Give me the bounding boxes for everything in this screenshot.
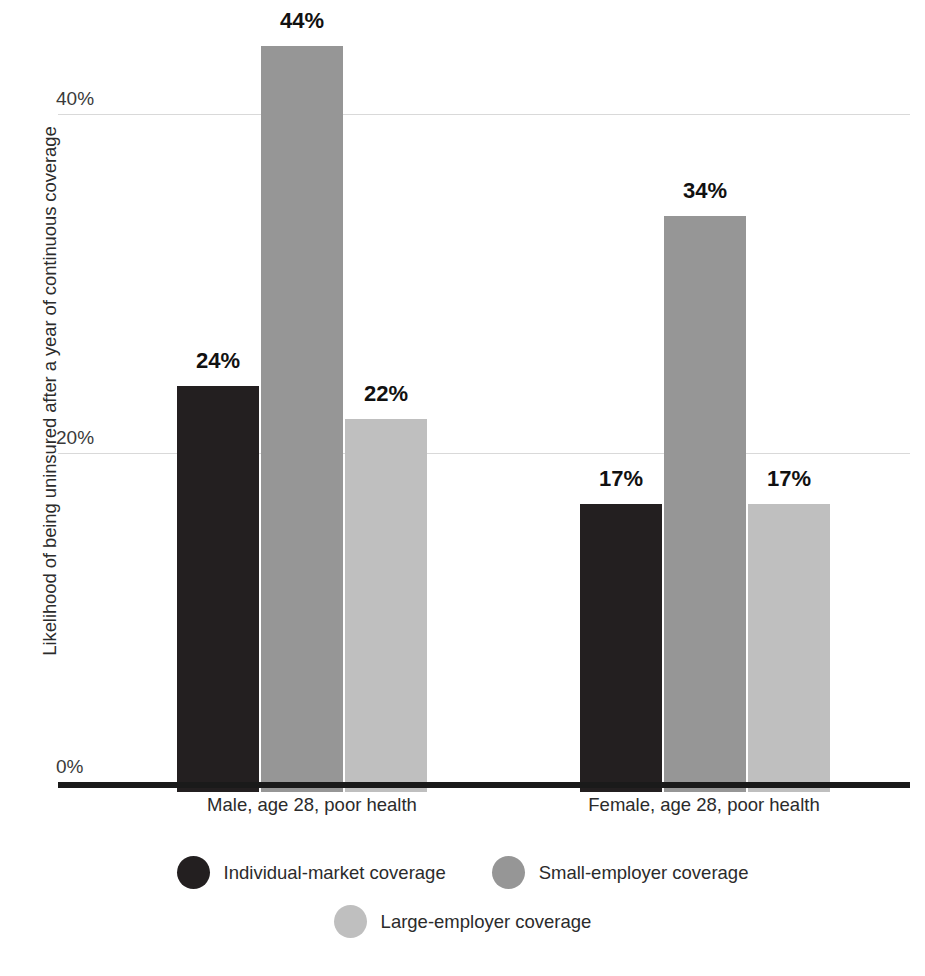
legend-row-1: Individual-market coverage Small-employe… [0, 856, 925, 889]
y-tick-label-0: 0% [56, 756, 122, 778]
category-label-male: Male, age 28, poor health [142, 794, 482, 816]
legend-label-individual-market: Individual-market coverage [224, 862, 446, 884]
legend: Individual-market coverage Small-employe… [0, 856, 925, 954]
gridline-40 [58, 114, 910, 115]
bar-value-label-female-individual-market: 17% [570, 466, 672, 492]
x-axis-baseline [58, 782, 910, 788]
bar-value-label-female-large-employer: 17% [738, 466, 840, 492]
bar-male-large-employer[interactable] [345, 419, 427, 792]
bar-value-label-male-small-employer: 44% [251, 8, 353, 34]
bar-value-label-male-large-employer: 22% [335, 381, 437, 407]
bar-value-label-female-small-employer: 34% [654, 178, 756, 204]
bar-female-small-employer[interactable] [664, 216, 746, 792]
plot-area: 24% 44% 22% 17% 34% 17% [58, 8, 910, 792]
y-tick-label-40: 40% [56, 88, 122, 110]
bar-female-large-employer[interactable] [748, 504, 830, 792]
legend-item-small-employer[interactable]: Small-employer coverage [492, 856, 749, 889]
bar-male-individual-market[interactable] [177, 386, 259, 792]
y-tick-label-20: 20% [56, 427, 122, 449]
bar-chart: Likelihood of being uninsured after a ye… [0, 0, 925, 976]
legend-swatch-circle-icon [492, 856, 525, 889]
bar-value-label-male-individual-market: 24% [167, 348, 269, 374]
legend-swatch-circle-icon [177, 856, 210, 889]
category-label-female: Female, age 28, poor health [534, 794, 874, 816]
bar-male-small-employer[interactable] [261, 46, 343, 792]
legend-swatch-circle-icon [334, 905, 367, 938]
bar-female-individual-market[interactable] [580, 504, 662, 792]
legend-item-individual-market[interactable]: Individual-market coverage [177, 856, 446, 889]
legend-row-2: Large-employer coverage [0, 905, 925, 938]
legend-label-large-employer: Large-employer coverage [381, 911, 592, 933]
legend-item-large-employer[interactable]: Large-employer coverage [334, 905, 592, 938]
legend-label-small-employer: Small-employer coverage [539, 862, 749, 884]
